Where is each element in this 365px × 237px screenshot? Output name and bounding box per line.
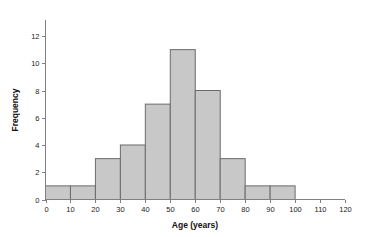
x-tick-label: 100 [289,205,302,214]
y-axis-title: Frequency [10,88,20,131]
y-tick-label: 6 [35,114,39,123]
histogram-bar [145,104,170,199]
y-tick-label: 12 [31,32,39,41]
x-axis-title: Age (years) [172,220,218,230]
x-tick-label: 30 [116,205,124,214]
x-tick-label: 120 [339,205,352,214]
histogram-bar [120,145,145,200]
histogram-bar [245,186,270,200]
histogram-bar [70,186,95,200]
histogram-bar [95,159,120,200]
histogram-bar [270,186,295,200]
x-tick-label: 10 [66,205,74,214]
x-tick-label: 20 [91,205,99,214]
x-tick-label: 50 [166,205,174,214]
y-tick-label: 10 [31,59,39,68]
y-tick-label: 4 [35,141,39,150]
x-tick-label: 90 [266,205,274,214]
y-tick-label: 2 [35,168,39,177]
histogram-bar [46,186,71,200]
histogram-bar [195,91,220,200]
y-tick-label: 0 [35,196,39,205]
x-tick-label: 40 [141,205,149,214]
histogram-bar [220,159,245,200]
histogram-figure: 0102030405060708090100110120 024681012 A… [0,0,365,237]
y-tick-label: 8 [35,87,39,96]
x-tick-label: 60 [191,205,199,214]
x-tick-label: 80 [241,205,249,214]
histogram-bar [170,50,195,200]
x-tick-label: 70 [216,205,224,214]
histogram-chart: 0102030405060708090100110120 024681012 A… [0,0,365,237]
x-tick-label: 0 [44,205,48,214]
x-tick-label: 110 [315,205,327,214]
